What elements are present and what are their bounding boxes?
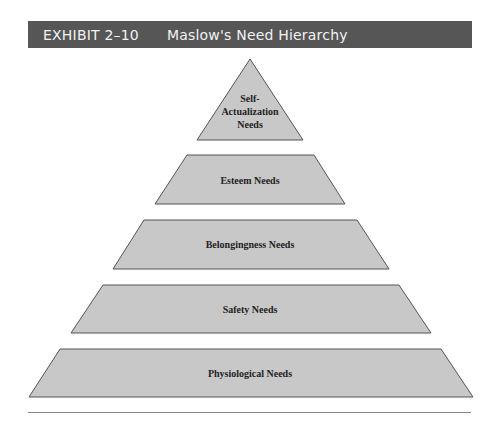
level-label-line: Needs bbox=[237, 119, 263, 130]
level-safety: Safety Needs bbox=[71, 285, 431, 333]
level-physiological: Physiological Needs bbox=[29, 349, 473, 397]
level-label: Belongingness Needs bbox=[206, 239, 295, 250]
level-belongingness: Belongingness Needs bbox=[113, 220, 389, 269]
level-label: Safety Needs bbox=[223, 304, 278, 315]
maslow-pyramid: Self- Actualization Needs Esteem Needs B… bbox=[0, 0, 497, 432]
level-label: Esteem Needs bbox=[220, 175, 279, 186]
level-label-line: Self- bbox=[240, 93, 259, 104]
level-self-actualization: Self- Actualization Needs bbox=[197, 59, 303, 140]
level-esteem: Esteem Needs bbox=[155, 155, 345, 204]
bottom-rule bbox=[28, 412, 471, 413]
level-label-line: Actualization bbox=[221, 106, 279, 117]
level-label: Physiological Needs bbox=[208, 368, 292, 379]
